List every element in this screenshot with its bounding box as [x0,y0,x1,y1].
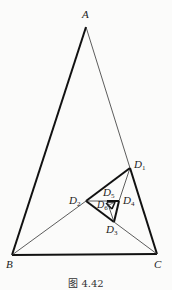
side-d1-c [130,168,157,254]
side-ab [12,27,86,255]
triangle-diagram [0,0,172,290]
line-b-d2 [12,201,86,255]
label-d4: D4 [123,195,134,208]
line-c-d3 [114,222,157,254]
label-d3: D3 [106,224,117,237]
label-d1: D1 [134,159,145,172]
label-c: C [154,259,161,270]
label-d5: D5 [103,187,114,200]
figure-caption: 图 4.42 [0,275,172,290]
side-a-d1 [86,27,130,168]
label-a: A [82,9,89,20]
label-d6: D6 [97,200,108,212]
label-d2: D2 [69,195,80,208]
geometry-figure: A B C D1 D2 D3 D4 D5 D6 图 4.42 [0,0,172,290]
label-b: B [6,259,13,270]
side-bc [12,254,157,255]
